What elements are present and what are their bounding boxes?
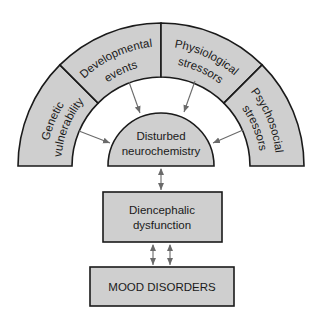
center-node-neurochemistry: Disturbed neurochemistry [108,113,214,166]
mood-disorders-diagram: Genetic vulnerability Developmental even… [0,0,319,320]
mood-disorders-box: MOOD DISORDERS [90,267,234,306]
diencephalic-label-line2: dysfunction [133,219,191,231]
center-label-line2: neurochemistry [122,145,201,157]
diencephalic-dysfunction-box: Diencephalic dysfunction [103,192,222,242]
arrow-developmental [129,82,140,113]
arrow-psychosocial [213,130,243,143]
mood-disorders-label: MOOD DISORDERS [108,281,216,293]
center-label-line1: Disturbed [136,130,185,142]
arrow-physiological [184,81,195,112]
diencephalic-label-line1: Diencephalic [129,204,195,216]
arrow-genetic [79,131,110,143]
